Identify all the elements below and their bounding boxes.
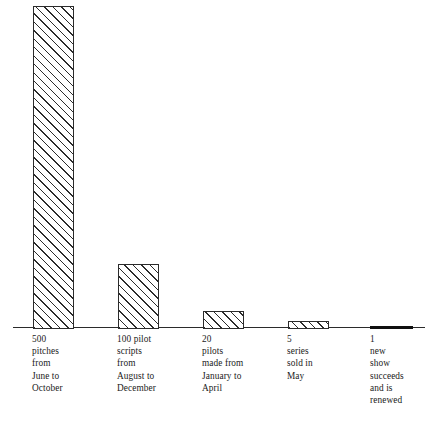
x-tick-label-100-pilot-scripts: 100 pilot scripts from August to Decembe… (117, 333, 156, 394)
x-tick-label-5-series: 5 series sold in May (287, 333, 313, 382)
x-tick-label-1-new-show: 1 new show succeeds and is renewed (370, 333, 404, 406)
x-tick-label-500-pitches: 500 pitches from June to October (32, 333, 63, 394)
x-axis-tick-labels: 500 pitches from June to October 100 pil… (0, 333, 433, 429)
bar-1-new-show (370, 326, 413, 329)
bar-5-series (288, 321, 329, 329)
bar-chart: 500 pitches from June to October 100 pil… (0, 0, 433, 429)
bar-100-pilot-scripts (118, 264, 159, 329)
plot-area (0, 0, 433, 331)
bar-500-pitches (33, 6, 74, 329)
bar-20-pilots (203, 311, 244, 329)
x-tick-label-20-pilots: 20 pilots made from January to April (202, 333, 243, 394)
